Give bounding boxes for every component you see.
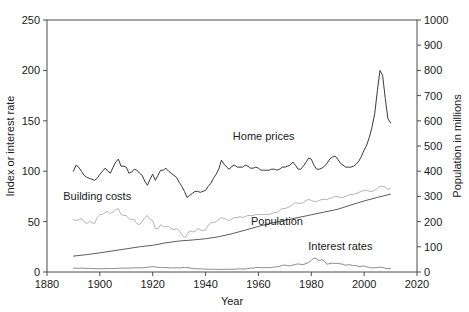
y-left-tick-label: 50 <box>28 216 40 228</box>
y-right-tick-label: 800 <box>424 64 442 76</box>
y-right-tick-label: 500 <box>424 140 442 152</box>
x-tick-label: 1960 <box>246 278 270 290</box>
y-right-tick-label: 100 <box>424 241 442 253</box>
y-left-tick-label: 150 <box>22 115 40 127</box>
y-left-tick-label: 200 <box>22 64 40 76</box>
y-left-tick-label: 0 <box>34 266 40 278</box>
x-tick-label: 1900 <box>88 278 112 290</box>
annotation-population: Population <box>251 215 303 227</box>
y-left-tick-label: 250 <box>22 14 40 26</box>
chart-figure: 18801900192019401960198020002020 0501001… <box>0 0 469 312</box>
x-tick-label: 2020 <box>405 278 429 290</box>
x-tick-label: 2000 <box>352 278 376 290</box>
annotation-building-costs: Building costs <box>63 190 131 202</box>
x-tick-label: 1920 <box>140 278 164 290</box>
y-axis-right-title: Population in millions <box>451 94 463 198</box>
annotation-home-prices: Home prices <box>233 130 295 142</box>
x-axis-title: Year <box>221 295 244 307</box>
y-right-tick-label: 900 <box>424 39 442 51</box>
x-tick-label: 1940 <box>193 278 217 290</box>
annotation-interest-rates: Interest rates <box>308 240 373 252</box>
y-right-tick-label: 600 <box>424 115 442 127</box>
y-right-tick-label: 700 <box>424 90 442 102</box>
y-right-tick-label: 1000 <box>424 14 448 26</box>
shiller-home-price-chart: 18801900192019401960198020002020 0501001… <box>0 0 469 312</box>
y-left-tick-label: 100 <box>22 165 40 177</box>
x-tick-label: 1880 <box>35 278 59 290</box>
y-right-tick-label: 400 <box>424 165 442 177</box>
y-right-tick-label: 200 <box>424 216 442 228</box>
chart-background <box>0 0 469 312</box>
x-tick-label: 1980 <box>299 278 323 290</box>
y-right-tick-label: 300 <box>424 190 442 202</box>
y-axis-left-title: Index or interest rate <box>4 96 16 197</box>
y-right-tick-label: 0 <box>424 266 430 278</box>
